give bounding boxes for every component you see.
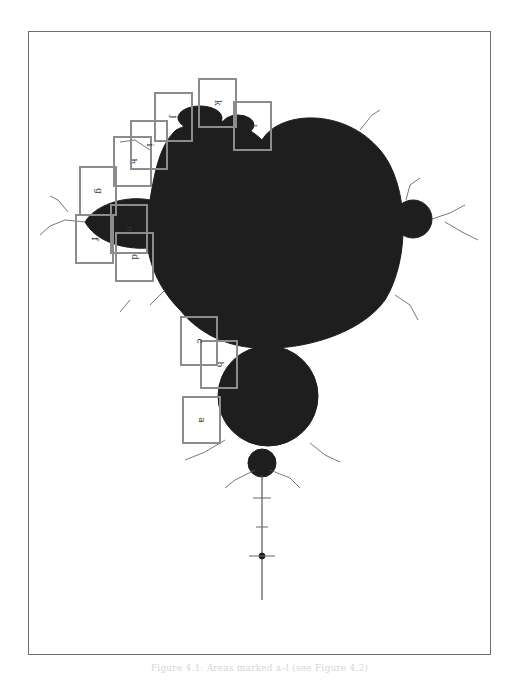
region-label-e: e xyxy=(125,226,135,231)
region-box-a: a xyxy=(183,397,220,443)
region-label-g: g xyxy=(94,188,104,194)
region-label-h: h xyxy=(128,159,138,165)
region-label-k: k xyxy=(213,100,223,106)
region-label-c: c xyxy=(195,338,205,343)
region-label-f: f xyxy=(90,237,100,241)
region-label-a: a xyxy=(197,417,207,423)
region-label-d: d xyxy=(130,254,140,260)
region-label-i: i xyxy=(145,144,155,147)
figure-caption: Figure 4.1: Areas marked a–l (see Figure… xyxy=(0,663,519,673)
region-label-l: l xyxy=(248,125,258,128)
region-label-j: j xyxy=(169,115,179,119)
mandelbrot-figure: abcdefghijkl xyxy=(0,0,519,684)
mandelbrot-set xyxy=(40,106,478,600)
